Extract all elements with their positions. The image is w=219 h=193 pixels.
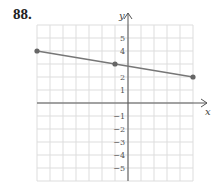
y-tick-label: −1 bbox=[113, 112, 125, 121]
data-point bbox=[34, 48, 39, 53]
data-point bbox=[190, 74, 195, 79]
y-tick-label: −3 bbox=[113, 138, 125, 147]
y-tick-label: −2 bbox=[113, 125, 125, 134]
y-axis-label: y bbox=[118, 10, 125, 21]
y-tick-label: 2 bbox=[120, 73, 125, 82]
y-tick-label: −4 bbox=[113, 151, 125, 160]
x-axis-label: x bbox=[205, 106, 211, 117]
y-tick-label: 5 bbox=[120, 34, 125, 43]
y-tick-label: 1 bbox=[120, 86, 125, 95]
y-tick-label: −5 bbox=[113, 164, 125, 173]
coordinate-plane: xy5421−1−2−3−4−5 bbox=[0, 0, 219, 193]
y-tick-label: 4 bbox=[120, 47, 125, 56]
data-point bbox=[112, 61, 117, 66]
